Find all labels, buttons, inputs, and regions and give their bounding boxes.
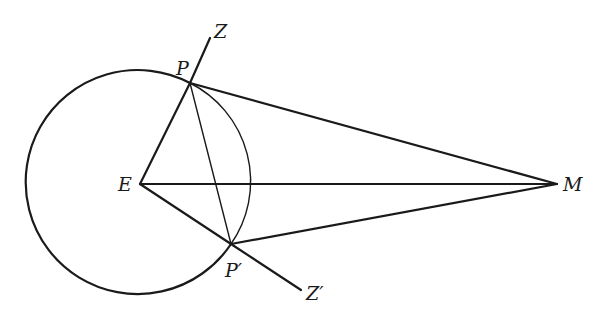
line-P-Z	[190, 38, 210, 83]
geometry-diagram: Z P E M P′ Z′	[0, 0, 611, 321]
label-E: E	[117, 173, 132, 195]
label-P: P	[175, 57, 190, 79]
line-P-M	[190, 83, 557, 184]
line-P-prime-M	[231, 184, 557, 244]
label-M: M	[562, 173, 583, 195]
circle-minor-arc	[190, 83, 251, 244]
label-Z: Z	[213, 20, 228, 42]
line-E-P	[140, 83, 190, 184]
label-P-prime: P′	[224, 259, 243, 281]
label-Z-prime: Z′	[305, 282, 324, 304]
